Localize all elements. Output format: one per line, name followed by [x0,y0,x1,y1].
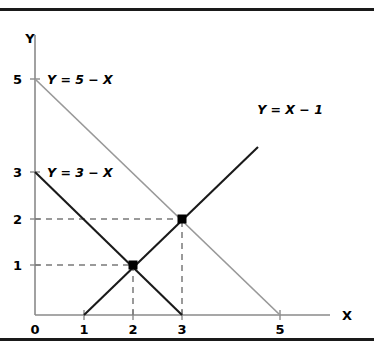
x-tick-label-2: 2 [128,322,137,335]
x-tick-label-3: 3 [177,322,186,335]
y-tick-label-5: 5 [13,72,22,87]
series-line-y3minusx [35,172,182,315]
series-line-y5minusx [35,79,280,315]
y-tick-label-2: 2 [13,212,22,227]
figure-canvas: Y X 5 3 2 1 0 1 2 3 5 [0,0,374,350]
series-label-y3minusx: Y = 3 − X [47,165,114,180]
x-tick-label-0: 0 [30,322,39,335]
x-tick-label-1: 1 [79,322,88,335]
series-label-yxminus1: Y = X − 1 [257,102,323,117]
intersection-marker-3-2 [178,215,187,224]
top-rule-divider [0,8,374,11]
series-label-y5minusx: Y = 5 − X [47,72,114,87]
x-tick-label-5: 5 [275,322,284,335]
y-tick-label-1: 1 [13,258,22,273]
line-chart: Y X 5 3 2 1 0 1 2 3 5 [0,15,374,335]
intersection-marker-2-1 [129,261,138,270]
bottom-rule-divider [0,338,374,341]
y-axis-title: Y [24,31,35,46]
y-tick-label-3: 3 [13,165,22,180]
chart-svg: Y X 5 3 2 1 0 1 2 3 5 [0,15,374,335]
x-axis-title: X [342,308,352,323]
